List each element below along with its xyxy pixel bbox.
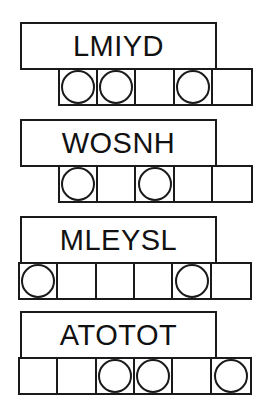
answer-grid [58,165,253,203]
answer-cell-circled[interactable] [20,264,58,298]
answer-cell-circled[interactable] [175,70,213,104]
circle-icon [175,264,209,298]
answer-cell-circled[interactable] [98,70,136,104]
answer-cell[interactable] [20,359,58,393]
word-text: WOSNH [62,129,176,158]
circle-icon [21,264,55,298]
puzzle-sheet: LMIYDWOSNHMLEYSLATOTOT [0,0,275,416]
answer-cell-circled[interactable] [212,359,250,393]
answer-cell[interactable] [58,359,96,393]
word-box: ATOTOT [20,311,217,359]
answer-cell-circled[interactable] [60,167,98,201]
answer-cell-circled[interactable] [173,264,211,298]
answer-cell-circled[interactable] [60,70,98,104]
answer-cell-circled[interactable] [97,359,135,393]
word-box: LMIYD [20,22,217,70]
answer-cell[interactable] [136,70,174,104]
word-text: LMIYD [73,32,164,61]
answer-cell-circled[interactable] [136,167,174,201]
answer-cell[interactable] [135,264,173,298]
word-text: MLEYSL [60,226,177,255]
circle-icon [61,70,95,104]
answer-cell[interactable] [98,167,136,201]
circle-icon [98,359,132,393]
circle-icon [176,70,210,104]
answer-cell[interactable] [58,264,96,298]
answer-cell[interactable] [173,359,211,393]
answer-grid [58,68,253,106]
answer-cell[interactable] [213,70,251,104]
word-text: ATOTOT [60,321,177,350]
answer-grid [18,262,252,300]
answer-cell[interactable] [97,264,135,298]
word-box: WOSNH [20,119,217,167]
circle-icon [136,359,170,393]
answer-cell-circled[interactable] [135,359,173,393]
circle-icon [61,167,95,201]
circle-icon [138,167,172,201]
answer-cell[interactable] [175,167,213,201]
answer-cell[interactable] [212,264,250,298]
circle-icon [99,70,133,104]
answer-cell[interactable] [213,167,251,201]
circle-icon [214,359,248,393]
answer-grid [18,357,252,395]
word-box: MLEYSL [20,216,217,264]
